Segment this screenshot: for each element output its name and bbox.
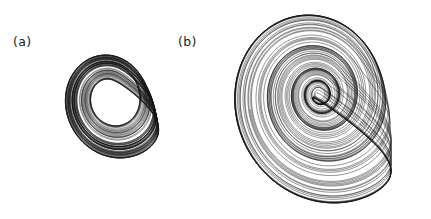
panel-label-a: (a) [13, 34, 32, 49]
panel-b [190, 0, 431, 219]
attractor-plot-a [0, 0, 200, 219]
trajectory-path [235, 15, 392, 203]
trajectory-path [65, 55, 158, 158]
figure-root: (a) (b) [0, 0, 431, 219]
panel-a: (a) [0, 0, 200, 219]
panel-label-b: (b) [178, 34, 197, 49]
attractor-plot-b [190, 0, 431, 219]
